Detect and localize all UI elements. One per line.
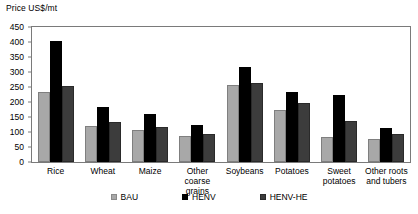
bar	[109, 122, 121, 162]
bar-group	[79, 27, 126, 162]
x-axis-category-label-line: potatoes	[316, 176, 363, 186]
x-axis-category-label-line: Maize	[127, 166, 174, 176]
bar-group	[32, 27, 79, 162]
y-axis-tick-label: 0	[19, 157, 24, 167]
bar	[203, 134, 215, 162]
bar-group	[127, 27, 174, 162]
bar	[227, 85, 239, 162]
x-axis-category-label-line: Soybeans	[221, 166, 268, 176]
bar	[97, 107, 109, 163]
bar	[251, 83, 263, 162]
bar-chart: Price US$/mt 050100150200250300350400450…	[0, 0, 418, 214]
bar	[392, 134, 404, 162]
bar-group-bars	[363, 27, 410, 162]
bar	[368, 139, 380, 162]
bar	[286, 92, 298, 162]
bar-group	[316, 27, 363, 162]
bar	[62, 86, 74, 162]
y-axis-tick-label: 50	[15, 142, 24, 152]
bar-group-bars	[221, 27, 268, 162]
bars-layer	[32, 27, 410, 162]
x-axis-category-labels: RiceWheatMaizeOther coarsegrainsSoybeans…	[32, 166, 410, 192]
bar-group-bars	[79, 27, 126, 162]
legend-item[interactable]: HENV-HE	[260, 192, 308, 202]
y-axis-title: Price US$/mt	[6, 3, 57, 13]
y-axis-tick-label: 200	[10, 97, 24, 107]
legend-label: HENV-HE	[270, 192, 308, 202]
x-axis-category-label-line: Potatoes	[268, 166, 315, 176]
x-axis-category-label: Maize	[127, 166, 174, 176]
x-axis-category-label: Other rootsand tubers	[363, 166, 410, 186]
bar-group-bars	[268, 27, 315, 162]
bar-group-bars	[127, 27, 174, 162]
bar-group	[174, 27, 221, 162]
y-axis-tick-label: 250	[10, 82, 24, 92]
y-axis-tick-label: 300	[10, 67, 24, 77]
y-axis-tick-label: 450	[10, 22, 24, 32]
y-axis-tick-label: 400	[10, 37, 24, 47]
x-axis-category-label-line: Other roots	[363, 166, 410, 176]
legend-label: BAU	[121, 192, 138, 202]
bar	[179, 136, 191, 162]
bar	[38, 92, 50, 162]
chart-legend: BAUHENVHENV-HE	[0, 192, 418, 210]
x-axis-category-label-line: Rice	[32, 166, 79, 176]
bar-group	[221, 27, 268, 162]
legend-item[interactable]: HENV	[182, 192, 216, 202]
legend-swatch-icon	[182, 194, 188, 200]
bar-group-bars	[32, 27, 79, 162]
x-axis-category-label-line: and tubers	[363, 176, 410, 186]
bar	[239, 67, 251, 162]
legend-label: HENV	[192, 192, 216, 202]
legend-item[interactable]: BAU	[111, 192, 138, 202]
bar	[298, 103, 310, 162]
bar	[156, 127, 168, 162]
bar-group-bars	[316, 27, 363, 162]
bar	[321, 137, 333, 162]
bar	[345, 121, 357, 162]
y-axis-tick-label: 100	[10, 127, 24, 137]
bar-group	[363, 27, 410, 162]
legend-swatch-icon	[260, 194, 266, 200]
x-axis-category-label-line: Sweet	[316, 166, 363, 176]
bar	[333, 95, 345, 162]
x-axis-category-label-line: Wheat	[79, 166, 126, 176]
x-axis-category-label: Sweetpotatoes	[316, 166, 363, 186]
y-axis-tick-label: 350	[10, 52, 24, 62]
bar	[191, 125, 203, 163]
bar	[85, 126, 97, 162]
plot-area	[31, 26, 411, 163]
bar-group-bars	[174, 27, 221, 162]
x-axis-category-label-line: Other coarse	[174, 166, 221, 186]
x-axis-category-label: Wheat	[79, 166, 126, 176]
bar	[50, 41, 62, 163]
y-axis-tick-label: 150	[10, 112, 24, 122]
y-axis: 050100150200250300350400450	[0, 26, 29, 163]
x-axis-category-label: Rice	[32, 166, 79, 176]
bar-group	[268, 27, 315, 162]
x-axis-category-label: Potatoes	[268, 166, 315, 176]
x-axis-category-label: Soybeans	[221, 166, 268, 176]
bar	[380, 128, 392, 163]
bar	[144, 114, 156, 162]
bar	[132, 130, 144, 162]
legend-swatch-icon	[111, 194, 117, 200]
bar	[274, 110, 286, 163]
